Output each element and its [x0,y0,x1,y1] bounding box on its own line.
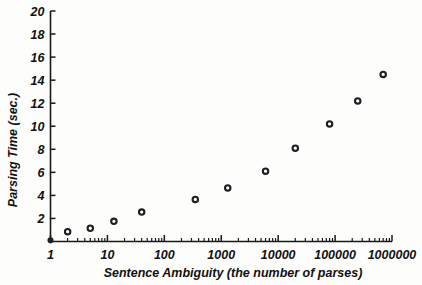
y-tick-label: 4 [37,189,45,203]
y-tick-label: 6 [38,166,46,180]
x-tick-label: 1000 [207,248,235,262]
x-axis-title: Sentence Ambiguity (the number of parses… [104,266,363,280]
y-axis-title: Parsing Time (sec.) [6,93,20,207]
x-tick-label: 100 [154,248,175,262]
data-point [193,197,198,202]
y-tick-label: 12 [31,97,45,111]
y-tick-label: 16 [31,51,46,65]
data-point [139,209,144,214]
data-point [49,238,53,242]
y-tick-label: 14 [31,74,45,88]
data-point [111,219,116,224]
x-tick-label: 10 [100,248,114,262]
data-point [263,168,268,173]
y-tick-label: 20 [30,5,45,19]
x-tick-label: 1000000 [368,248,417,262]
x-tick-label: 100000 [314,248,356,262]
data-point [65,229,70,234]
y-tick-label: 18 [31,28,45,42]
x-tick-label: 1 [47,248,54,262]
x-axis-ticks [51,235,393,242]
x-axis-tick-labels: 1101001000100001000001000000 [47,248,416,262]
data-point [293,145,298,150]
chart-canvas: 2468101214161820 11010010001000010000010… [0,0,422,285]
data-point [380,72,385,77]
y-tick-label: 8 [38,143,45,157]
data-point [355,98,360,103]
parsing-time-scatter-chart: 2468101214161820 11010010001000010000010… [0,0,422,285]
data-point [88,226,93,231]
data-point [327,121,332,126]
y-tick-label: 2 [37,212,45,226]
x-tick-label: 10000 [261,248,296,262]
data-point [225,185,230,190]
y-axis-tick-labels: 2468101214161820 [30,5,46,226]
data-point-markers [49,72,386,243]
y-tick-label: 10 [31,120,45,134]
